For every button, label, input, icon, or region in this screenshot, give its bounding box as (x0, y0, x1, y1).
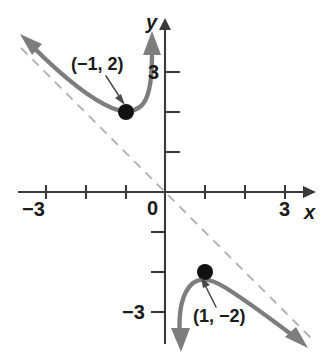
y-tick-label-minus3: −3 (122, 302, 145, 322)
origin-label: 0 (147, 198, 158, 218)
x-axis-label: x (304, 202, 315, 222)
point-label-upper: (−1, 2) (71, 55, 124, 73)
point-marker-upper (118, 104, 134, 120)
graph-canvas (0, 0, 327, 355)
leader-arrowhead-upper (115, 94, 125, 105)
y-tick-label-3: 3 (148, 62, 159, 82)
point-label-lower: (1, −2) (193, 307, 246, 325)
y-axis-label: y (146, 12, 157, 32)
point-marker-lower (197, 264, 213, 280)
x-axis-arrowhead (303, 186, 316, 198)
curve-upper-top-arrowhead (143, 31, 161, 55)
curve-lower-bottom-arrowhead (171, 328, 190, 352)
x-tick-label-minus3: −3 (22, 199, 45, 219)
x-tick-label-3: 3 (279, 199, 290, 219)
graph-figure: −3 3 0 3 −3 x y (−1, 2) (1, −2) (0, 0, 327, 355)
y-axis-arrowhead (159, 18, 171, 30)
